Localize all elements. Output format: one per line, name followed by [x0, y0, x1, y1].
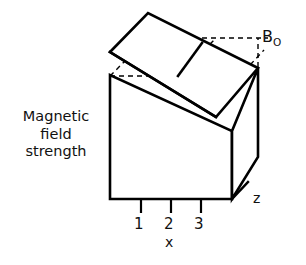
figure-root: Magnetic field strength 1 2 3 x z BO	[0, 0, 306, 265]
field-symbol-label: BO	[262, 27, 281, 47]
x-tick-label-1: 1	[134, 215, 144, 233]
x-axis-ticks	[141, 200, 201, 213]
y-axis-caption: Magnetic field strength	[8, 108, 104, 161]
field-symbol-base: B	[262, 27, 273, 46]
field-symbol-subscript: O	[273, 36, 281, 48]
x-axis-label: x	[165, 234, 173, 251]
x-tick-label-3: 3	[194, 215, 204, 233]
x-tick-label-2: 2	[164, 215, 174, 233]
y-axis-caption-line-1: Magnetic field strength	[23, 108, 89, 159]
z-axis-label: z	[253, 190, 260, 207]
